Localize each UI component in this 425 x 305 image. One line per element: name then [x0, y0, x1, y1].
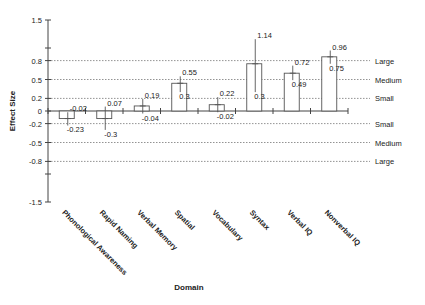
ci-upper-label: 1.14 [257, 31, 272, 40]
ci-upper-label: 0.96 [332, 43, 347, 52]
category-label: Syntax [248, 208, 272, 232]
ci-upper-label: -0.02 [70, 104, 87, 113]
ci-lower-label: 0.49 [292, 80, 307, 89]
y-tick-label: -0.5 [29, 139, 42, 148]
ci-lower-label: 0.3 [179, 92, 189, 101]
ci-upper-label: 0.22 [220, 89, 235, 98]
ci-lower-label: 0.3 [254, 92, 264, 101]
ci-upper-label: 0.19 [145, 91, 160, 100]
bars: -0.02-0.230.07-0.30.19-0.040.550.30.22-0… [59, 31, 347, 139]
ci-upper-label: 0.07 [107, 99, 122, 108]
y-tick-label: 0.5 [32, 76, 42, 85]
category-label: Vocabulary [210, 208, 245, 243]
ci-lower-label: -0.3 [104, 130, 117, 139]
ci-lower-label: -0.02 [217, 112, 234, 121]
reference-line-label: Small [375, 120, 394, 129]
y-tick-label: -0.2 [29, 120, 42, 129]
bar [209, 105, 224, 111]
bar [97, 111, 112, 119]
effect-size-bar-chart: LargeMediumSmallSmallMediumLarge 1.50.80… [0, 0, 425, 305]
y-tick-label: 1.5 [32, 16, 42, 25]
y-tick-label: -1.5 [29, 198, 42, 207]
reference-line-label: Large [375, 157, 394, 166]
y-tick-label: 0.2 [32, 94, 42, 103]
ci-lower-label: -0.23 [67, 125, 84, 134]
category-labels: Phonological AwarenessRapid NamingVerbal… [60, 208, 362, 277]
bar [284, 73, 299, 111]
y-tick-label: 0 [38, 107, 42, 116]
category-label: Rapid Naming [98, 208, 140, 250]
y-axis-title: Effect Size [8, 90, 17, 131]
bar [247, 64, 262, 111]
category-label: Verbal IQ [285, 208, 314, 237]
reference-line-label: Medium [375, 139, 402, 148]
reference-line-label: Medium [375, 76, 402, 85]
bar [134, 106, 149, 111]
category-label: Nonverbal IQ [323, 208, 362, 247]
x-axis-title: Domain [174, 283, 203, 292]
ci-lower-label: 0.75 [329, 64, 344, 73]
reference-line-label: Small [375, 94, 394, 103]
ci-upper-label: 0.55 [182, 68, 197, 77]
x-axis [48, 108, 348, 114]
y-tick-label: 0.8 [32, 57, 42, 66]
ci-lower-label: -0.04 [142, 114, 159, 123]
y-tick-label: -0.8 [29, 157, 42, 166]
ci-upper-label: 0.72 [295, 58, 310, 67]
reference-line-label: Large [375, 57, 394, 66]
category-label: Spatial [173, 208, 197, 232]
category-label: Phonological Awareness [60, 208, 129, 277]
